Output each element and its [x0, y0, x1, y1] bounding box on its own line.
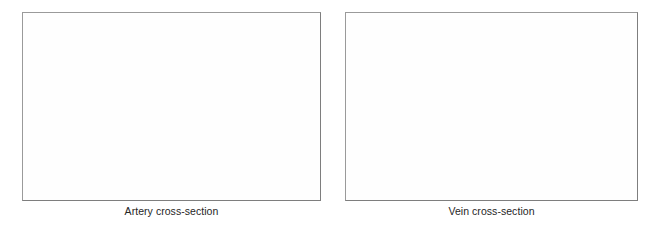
image-canvas-artery — [23, 13, 320, 200]
figure-panel-artery: Artery cross-section — [0, 0, 343, 227]
caption-vein: Vein cross-section — [345, 205, 638, 218]
figure-root: Artery cross-section Vein cross-section — [0, 0, 658, 227]
image-canvas-vein — [346, 13, 637, 200]
image-placeholder-vein[interactable] — [345, 12, 638, 201]
caption-artery: Artery cross-section — [22, 205, 321, 218]
image-placeholder-artery[interactable] — [22, 12, 321, 201]
figure-panel-vein: Vein cross-section — [343, 0, 658, 227]
